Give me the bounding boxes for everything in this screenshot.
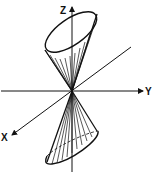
x-axis-label: X bbox=[1, 132, 8, 143]
y-axis-label: Y bbox=[145, 86, 152, 97]
z-axis-label: Z bbox=[60, 5, 66, 16]
diagram-canvas: Z Y X bbox=[0, 0, 155, 174]
double-cone-diagram: Z Y X bbox=[0, 0, 155, 174]
axes bbox=[1, 7, 143, 172]
upper-cone bbox=[39, 4, 103, 91]
